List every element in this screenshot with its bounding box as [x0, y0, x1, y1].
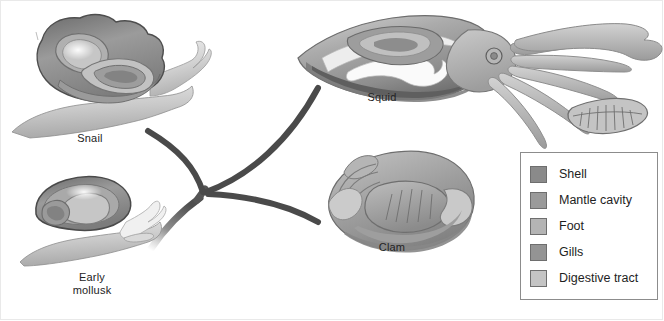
organism-early-mollusk [20, 177, 166, 266]
legend-swatch-gills [530, 244, 547, 261]
legend-label-foot: Foot [559, 219, 584, 233]
snail-shell-highlight [62, 40, 94, 60]
legend-label-gills: Gills [559, 245, 583, 259]
label-clam: Clam [368, 241, 416, 254]
organism-clam [329, 151, 475, 252]
legend-item-foot: Foot [530, 213, 657, 239]
legend-item-gills: Gills [530, 239, 657, 265]
branch-to-squid [206, 88, 318, 192]
legend-label-shell: Shell [559, 167, 587, 181]
squid-tentacle-club [568, 98, 647, 133]
branch-to-clam [208, 194, 318, 222]
figure-canvas: Snail Squid Clam Early mollusk Shell Man… [0, 0, 664, 321]
organism-snail [12, 15, 211, 138]
branch-to-snail [148, 131, 203, 192]
label-early-mollusk: Early mollusk [56, 271, 128, 297]
legend-label-digestive-tract: Digestive tract [559, 271, 638, 285]
label-squid: Squid [358, 91, 406, 104]
lineage-branches [148, 88, 318, 250]
legend-item-digestive-tract: Digestive tract [530, 265, 657, 291]
legend-box: Shell Mantle cavity Foot Gills Digestive… [520, 152, 658, 300]
legend-swatch-foot [530, 218, 547, 235]
snail-stray-mark [36, 32, 38, 40]
legend-swatch-digestive-tract [530, 270, 547, 287]
label-snail: Snail [66, 132, 114, 145]
legend-item-mantle-cavity: Mantle cavity [530, 187, 657, 213]
organism-squid [298, 16, 662, 149]
legend-swatch-mantle-cavity [530, 192, 547, 209]
clam-gills [365, 181, 449, 232]
squid-pupil [491, 53, 498, 60]
legend-label-mantle-cavity: Mantle cavity [559, 193, 632, 207]
legend-swatch-shell [530, 166, 547, 183]
early-mollusk-highlight [66, 184, 102, 200]
legend-item-shell: Shell [530, 161, 657, 187]
